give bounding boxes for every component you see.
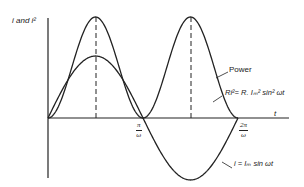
power-equation: Ri²= R. Iₘ² sin² ωt	[225, 89, 284, 97]
power-eq-pointer	[213, 96, 222, 102]
current-eq-pointer	[222, 162, 232, 168]
power-label: Power	[229, 66, 252, 74]
x-axis-label: t	[274, 110, 276, 118]
tick-2pi-over-omega: 2π ω	[239, 122, 248, 139]
current-equation: i = Iₘ sin ωt	[234, 160, 273, 168]
tick-pi-over-omega: π ω	[136, 122, 142, 139]
diagram: i and i² t Power Ri²= R. Iₘ² sin² ωt i =…	[0, 0, 304, 187]
power-pointer	[216, 72, 228, 78]
y-axis-label: i and i²	[12, 17, 36, 25]
